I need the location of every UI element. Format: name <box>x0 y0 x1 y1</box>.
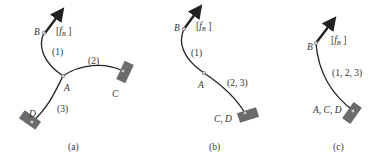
label-node-cd: C, D <box>214 114 232 124</box>
force-arrow-b <box>316 22 332 43</box>
label-node-a: A <box>197 80 204 90</box>
diagram-canvas: B [fB ] (1) (2) A C (3) D (a) B [fB ] (1… <box>0 0 383 161</box>
label-node-b: B <box>307 42 313 52</box>
label-member-1-2-3: (1, 2, 3) <box>332 68 362 79</box>
node-b <box>182 27 186 31</box>
label-node-b: B <box>34 27 40 37</box>
label-member-1: (1) <box>52 47 63 58</box>
node-acd <box>351 109 355 113</box>
label-force-b: [fB ] <box>196 21 211 32</box>
member-2 <box>63 65 123 76</box>
label-member-2-3: (2, 3) <box>227 78 248 89</box>
caption-c: (c) <box>333 142 344 153</box>
support-acd <box>342 102 362 124</box>
node-b <box>42 31 46 35</box>
label-node-acd: A, C, D <box>312 105 342 115</box>
node-d <box>30 120 34 124</box>
support-c <box>116 61 134 83</box>
panel-b: B [fB ] (1) A (2, 3) C, D (b) <box>174 10 259 153</box>
label-force-b: [fB ] <box>56 26 71 37</box>
label-member-3: (3) <box>57 104 68 115</box>
support-cd <box>237 107 259 123</box>
node-a <box>61 74 65 78</box>
panel-c: B [fB ] (1, 2, 3) A, C, D (c) <box>307 22 362 153</box>
node-c <box>121 69 125 73</box>
node-b <box>314 41 318 45</box>
label-member-2: (2) <box>88 56 99 67</box>
label-node-c: C <box>112 89 119 99</box>
label-force-b: [fB ] <box>331 35 346 46</box>
node-cd <box>243 111 247 115</box>
label-node-b: B <box>174 23 180 33</box>
caption-a: (a) <box>68 142 79 153</box>
panel-a: B [fB ] (1) (2) A C (3) D (a) <box>19 13 134 153</box>
caption-b: (b) <box>209 142 220 153</box>
label-member-1: (1) <box>191 48 202 59</box>
member-3 <box>32 76 63 122</box>
node-a <box>202 71 206 75</box>
label-node-d: D <box>28 109 36 119</box>
label-node-a: A <box>63 83 70 93</box>
